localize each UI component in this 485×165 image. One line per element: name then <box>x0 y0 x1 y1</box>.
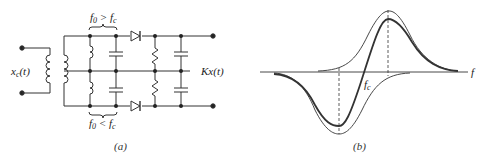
bottom-load-capacitor-icon <box>174 71 188 106</box>
top-load-capacitor-icon <box>174 36 188 71</box>
output-signal-label: Kx(t) <box>200 65 224 78</box>
discriminator-response-plot <box>260 10 468 134</box>
caption-b: (b) <box>353 140 366 153</box>
composite-s-curve <box>274 19 458 126</box>
circuit-diagram <box>20 24 215 118</box>
center-frequency-label: fc <box>364 78 371 92</box>
frequency-axis-label: f <box>471 66 476 78</box>
input-signal-label: xc(t) <box>10 65 30 79</box>
output-terminal-top <box>211 34 215 38</box>
top-load-resistor-icon <box>152 36 158 71</box>
bottom-load-resistor-icon <box>152 71 158 106</box>
balanced-discriminator-figure: f0 > fc f0 < fc xc(t) Kx(t) (a) f fc (b) <box>0 0 485 165</box>
input-wire-bottom <box>22 86 50 93</box>
top-tank-capacitor-icon <box>109 36 123 71</box>
transformer-primary-icon <box>46 55 50 86</box>
input-wire-top <box>22 48 50 55</box>
bottom-tank-capacitor-icon <box>109 71 123 106</box>
bottom-diode-icon <box>131 101 140 111</box>
bottom-tank-inductor-icon <box>90 71 93 106</box>
top-diode-icon <box>131 31 140 41</box>
bottom-tank-label: f0 < fc <box>89 117 116 131</box>
top-tank-label: f0 > fc <box>90 11 117 25</box>
output-terminal-bottom <box>211 104 215 108</box>
caption-a: (a) <box>114 140 127 153</box>
top-tank-inductor-icon <box>90 36 93 71</box>
